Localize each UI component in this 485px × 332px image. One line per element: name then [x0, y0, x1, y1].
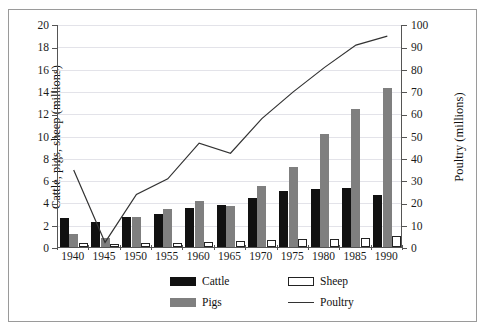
left-axis-ticks: 02468101214161820	[0, 25, 57, 248]
left-tick-label: 18	[0, 41, 57, 53]
left-tick-label: 12	[0, 108, 57, 120]
left-tick-label: 0	[0, 242, 57, 254]
x-tick-label: 1940	[61, 250, 84, 262]
right-tick-label: 70	[402, 86, 423, 98]
legend-label: Cattle	[202, 275, 229, 287]
poultry-line	[74, 36, 388, 242]
right-axis-ticks: 0102030405060708090100	[402, 25, 448, 248]
legend-label: Poultry	[320, 296, 354, 308]
poultry-line-layer	[58, 25, 403, 248]
x-tick-label: 1970	[249, 250, 272, 262]
x-tick-mark	[277, 245, 278, 250]
x-axis-labels: 1940194519501955196019651970197519801985…	[57, 250, 402, 268]
right-tick-label: 20	[402, 197, 423, 209]
left-tick-label: 16	[0, 64, 57, 76]
x-tick-mark	[88, 245, 89, 250]
x-tick-mark	[214, 245, 215, 250]
legend-item-cattle[interactable]: Cattle	[170, 275, 229, 287]
x-tick-mark	[182, 245, 183, 250]
x-tick-mark	[57, 245, 58, 250]
x-tick-label: 1965	[218, 250, 241, 262]
x-tick-label: 1985	[343, 250, 366, 262]
right-axis-title-wrap: Poultry (millions)	[446, 25, 472, 248]
x-tick-label: 1960	[187, 250, 210, 262]
left-tick-label: 2	[0, 220, 57, 232]
left-tick-label: 6	[0, 175, 57, 187]
left-tick-label: 14	[0, 86, 57, 98]
x-tick-mark	[308, 245, 309, 250]
chart-figure: Cattle, pigs, sheep (millions) Poultry (…	[0, 0, 485, 332]
left-tick-label: 20	[0, 19, 57, 31]
right-tick-label: 40	[402, 153, 423, 165]
x-tick-mark	[151, 245, 152, 250]
right-tick-label: 100	[402, 19, 428, 31]
left-tick-label: 10	[0, 131, 57, 143]
x-tick-mark	[339, 245, 340, 250]
x-tick-label: 1990	[375, 250, 398, 262]
legend-item-sheep[interactable]: Sheep	[288, 275, 348, 287]
right-tick-label: 90	[402, 41, 423, 53]
x-tick-mark	[402, 245, 403, 250]
plot-area	[57, 25, 402, 248]
chart-legend: CattleSheepPigsPoultry	[170, 275, 420, 317]
legend-swatch-sheep-icon	[288, 277, 314, 286]
legend-item-poultry[interactable]: Poultry	[288, 296, 354, 308]
x-tick-label: 1975	[281, 250, 304, 262]
x-tick-mark	[245, 245, 246, 250]
right-tick-label: 80	[402, 64, 423, 76]
right-tick-label: 50	[402, 131, 423, 143]
right-tick-label: 0	[402, 242, 417, 254]
x-tick-label: 1945	[93, 250, 116, 262]
x-tick-label: 1955	[155, 250, 178, 262]
legend-label: Pigs	[202, 296, 222, 308]
legend-swatch-cattle-icon	[170, 277, 196, 286]
x-tick-label: 1950	[124, 250, 147, 262]
left-tick-label: 8	[0, 153, 57, 165]
legend-item-pigs[interactable]: Pigs	[170, 296, 222, 308]
x-tick-mark	[120, 245, 121, 250]
right-axis-title: Poultry (millions)	[452, 52, 467, 222]
left-tick-label: 4	[0, 197, 57, 209]
right-tick-label: 10	[402, 220, 423, 232]
x-tick-label: 1980	[312, 250, 335, 262]
legend-label: Sheep	[320, 275, 348, 287]
legend-swatch-poultry-icon	[288, 302, 314, 303]
legend-swatch-pigs-icon	[170, 298, 196, 307]
x-tick-mark	[371, 245, 372, 250]
right-tick-label: 30	[402, 175, 423, 187]
right-tick-label: 60	[402, 108, 423, 120]
